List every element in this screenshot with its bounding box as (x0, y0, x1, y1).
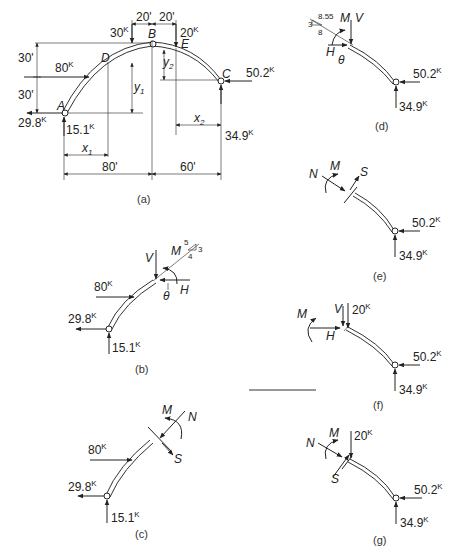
caption-g: (g) (373, 534, 386, 546)
label-M: M (297, 307, 307, 321)
label-V: V (145, 251, 154, 265)
label-N: N (188, 410, 197, 424)
d-reaction-VC: 34.9K (399, 99, 428, 114)
b-reaction-HA: 29.8K (68, 311, 97, 326)
panel-a: 30' 30' 20' 20' 30K 20K 80K A D B E C 29… (18, 10, 275, 205)
svg-text:8.55: 8.55 (318, 12, 334, 21)
b-load-80: 80K (94, 279, 113, 294)
caption-c: (c) (135, 528, 148, 540)
dim-top-30: 30' (18, 51, 34, 65)
label-H: H (326, 45, 335, 59)
point-B: B (148, 27, 156, 41)
caption-e: (e) (373, 270, 386, 282)
label-M: M (340, 11, 350, 25)
label-N: N (306, 436, 315, 450)
reaction-VA: 15.1K (66, 122, 95, 137)
moment-M (325, 174, 338, 193)
dim-right-20: 20' (159, 10, 175, 24)
panel-f: V 20K H M 50.2K 34.9K (f) (297, 302, 442, 411)
label-S: S (331, 472, 339, 486)
load-30-label: 30K (110, 25, 129, 40)
moment-M (332, 30, 345, 45)
g-reaction-HC: 50.2K (414, 482, 443, 497)
panel-g: N S 20K M 50.2K 34.9K (g) (306, 426, 443, 546)
g-load-20: 20K (354, 428, 373, 443)
label-M: M (171, 244, 181, 258)
c-reaction-HA: 29.8K (68, 479, 97, 494)
label-V: V (355, 11, 364, 25)
dim-span-80: 80' (102, 160, 118, 174)
reaction-VC: 34.9K (225, 128, 254, 143)
point-A: A (56, 99, 65, 113)
caption-a: (a) (137, 193, 150, 205)
force-S (162, 443, 173, 455)
label-S: S (174, 452, 182, 466)
label-theta: θ (338, 53, 345, 67)
caption-f: (f) (373, 399, 383, 411)
e-reaction-HC: 50.2K (412, 215, 441, 230)
point-E: E (181, 37, 190, 51)
reaction-HA: 29.8K (18, 115, 47, 130)
label-S: S (360, 165, 368, 179)
cut-line (148, 427, 172, 452)
moment-M (165, 418, 182, 439)
dim-x2: x2 (193, 111, 205, 127)
svg-text:3: 3 (198, 245, 203, 254)
force-N (318, 443, 342, 457)
dim-left-20: 20' (136, 10, 152, 24)
label-N: N (309, 167, 318, 181)
label-H: H (180, 283, 189, 297)
hinge-B (150, 41, 156, 47)
dim-y1: y1 (133, 80, 144, 96)
e-reaction-VC: 34.9K (399, 248, 428, 263)
label-theta: θ (163, 289, 170, 303)
svg-text:8: 8 (318, 28, 323, 37)
f-load-20: 20K (352, 302, 371, 317)
label-V: V (334, 302, 343, 316)
point-C: C (222, 67, 231, 81)
panel-e: N S M 50.2K 34.9K (e) (309, 159, 441, 282)
svg-text:5: 5 (184, 238, 189, 247)
moment-M (308, 318, 316, 342)
c-reaction-VA: 15.1K (111, 510, 140, 525)
dim-span-60: 60' (180, 160, 196, 174)
c-load-80: 80K (88, 442, 107, 457)
panel-b: V M 5 3 4 H θ 80K 29.8K 15.1K (b) (68, 238, 203, 375)
force-S (350, 176, 359, 190)
load-80-label: 80K (55, 60, 74, 75)
label-M: M (329, 426, 339, 440)
g-reaction-VC: 34.9K (400, 515, 429, 530)
arch-figure: 30' 30' 20' 20' 30K 20K 80K A D B E C 29… (0, 0, 462, 554)
caption-d: (d) (375, 120, 388, 132)
panel-d: 8.55 3 8 M V H θ 50.2K 34.9K (d) (308, 11, 442, 132)
svg-text:3: 3 (308, 20, 313, 29)
caption-b: (b) (135, 363, 148, 375)
point-D: D (101, 51, 110, 65)
f-reaction-HC: 50.2K (413, 349, 442, 364)
svg-text:4: 4 (188, 252, 193, 261)
reaction-HC: 50.2K (246, 65, 275, 80)
label-M: M (330, 159, 340, 173)
f-reaction-VC: 34.9K (399, 382, 428, 397)
dim-bottom-30: 30' (18, 88, 34, 102)
dim-x1: x1 (81, 141, 92, 157)
label-H: H (326, 329, 335, 343)
moment-M (163, 268, 177, 284)
dim-y2: y2 (162, 55, 174, 71)
label-M: M (162, 403, 172, 417)
d-reaction-HC: 50.2K (413, 66, 442, 81)
panel-c: N S M 80K 29.8K 15.1K (c) (68, 403, 197, 540)
moment-M (325, 440, 338, 459)
b-reaction-VA: 15.1K (112, 340, 141, 355)
